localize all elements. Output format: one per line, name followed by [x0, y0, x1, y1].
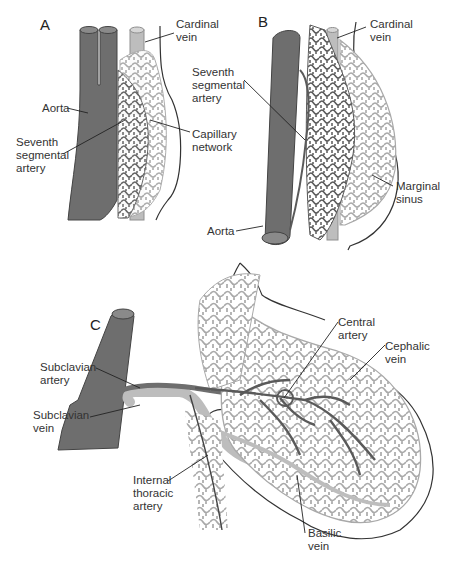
label-b-marginal-sinus: Marginal sinus — [396, 180, 440, 206]
label-a-aorta: Aorta — [42, 102, 70, 115]
label-c-central-artery: Central artery — [338, 316, 375, 342]
label-c-basilic-vein: Basilic vein — [308, 527, 341, 553]
label-c-subclavian-artery: Subclavian artery — [40, 361, 96, 387]
aorta-vessel — [68, 30, 117, 220]
panel-b: B — [236, 13, 398, 250]
aorta-lumen — [112, 309, 134, 319]
panel-c-letter: C — [90, 316, 101, 333]
label-a-cardinal-vein: Cardinal vein — [176, 18, 219, 44]
limb-vasculature-diagram: A B — [0, 0, 462, 565]
aorta-lumen — [262, 232, 288, 244]
panel-a: A — [40, 16, 190, 220]
label-c-cephalic-vein: Cephalic vein — [385, 340, 430, 366]
aorta-right-lumen — [99, 27, 117, 34]
label-c-internal-thoracic-artery: Internal thoracic artery — [133, 474, 173, 513]
label-b-seventh-segmental-artery: Seventh segmental artery — [192, 66, 245, 105]
aorta-left-lumen — [80, 27, 98, 34]
label-a-seventh-segmental-artery: Seventh segmental artery — [16, 136, 69, 175]
panel-c: C — [58, 263, 433, 539]
cardinal-vein-lumen — [130, 27, 144, 33]
cardinal-vein-lumen — [327, 28, 338, 33]
panel-b-letter: B — [258, 13, 268, 30]
limb-capillary-plexus — [221, 300, 420, 523]
label-a-capillary-network: Capillary network — [192, 128, 237, 154]
label-c-subclavian-vein: Subclavian vein — [33, 409, 89, 435]
panel-a-letter: A — [40, 16, 50, 33]
label-b-aorta: Aorta — [207, 225, 235, 238]
label-b-cardinal-vein: Cardinal vein — [370, 18, 413, 44]
thoracic-plexus — [185, 410, 228, 530]
